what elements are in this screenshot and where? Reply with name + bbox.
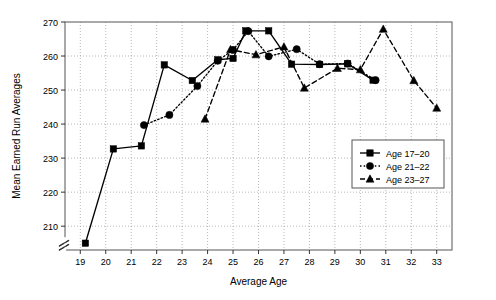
- y-tick-label: 260: [43, 52, 58, 62]
- data-point-triangle: [433, 104, 441, 111]
- data-point-square: [367, 150, 373, 156]
- legend-entry-label: Age 17–20: [386, 149, 430, 159]
- y-tick-label: 210: [43, 222, 58, 232]
- y-tick-label: 270: [43, 18, 58, 28]
- data-point-circle: [140, 122, 147, 129]
- x-tick-label: 33: [432, 257, 442, 267]
- x-tick-label: 29: [330, 257, 340, 267]
- x-tick-label: 20: [101, 257, 111, 267]
- x-tick-label: 32: [406, 257, 416, 267]
- legend-entry-label: Age 21–22: [386, 162, 430, 172]
- x-axis-title: Average Age: [230, 276, 288, 287]
- y-tick-label: 220: [43, 188, 58, 198]
- data-point-square: [161, 62, 167, 68]
- data-point-circle: [194, 82, 201, 89]
- series-line: [144, 31, 376, 125]
- x-tick-label: 21: [126, 257, 136, 267]
- y-tick-label: 250: [43, 86, 58, 96]
- data-point-square: [110, 146, 116, 152]
- legend-entry-label: Age 23–27: [386, 175, 430, 185]
- data-point-triangle: [300, 84, 308, 91]
- x-tick-label: 31: [381, 257, 391, 267]
- series-1: [82, 28, 376, 247]
- y-tick-labels: 210220230240250260270: [43, 18, 58, 232]
- x-tick-labels: 192021222324252627282930313233: [75, 257, 441, 267]
- series-line: [85, 31, 373, 243]
- data-point-triangle: [410, 76, 418, 83]
- x-tick-label: 30: [355, 257, 365, 267]
- data-point-triangle: [280, 43, 288, 50]
- x-tick-label: 19: [75, 257, 85, 267]
- x-tick-label: 24: [203, 257, 213, 267]
- data-point-circle: [293, 46, 300, 53]
- data-point-circle: [316, 61, 323, 68]
- y-tick-label: 230: [43, 154, 58, 164]
- data-point-circle: [214, 57, 221, 64]
- data-point-circle: [366, 162, 373, 169]
- data-series: [82, 25, 441, 246]
- data-point-square: [265, 28, 271, 34]
- data-point-circle: [265, 53, 272, 60]
- series-2: [140, 28, 379, 129]
- x-tick-label: 26: [253, 257, 263, 267]
- line-chart-svg: 210220230240250260270 192021222324252627…: [0, 0, 496, 300]
- data-point-circle: [166, 111, 173, 118]
- y-tick-label: 240: [43, 120, 58, 130]
- data-point-square: [82, 240, 88, 246]
- x-tick-label: 27: [279, 257, 289, 267]
- axis-ticks: [61, 22, 437, 254]
- data-point-square: [138, 143, 144, 149]
- x-tick-label: 22: [152, 257, 162, 267]
- chart-legend: Age 17–20Age 21–22Age 23–27: [352, 140, 444, 188]
- data-point-circle: [372, 77, 379, 84]
- y-axis-break-marker: [59, 237, 69, 253]
- y-axis-title: Mean Earned Run Averages: [11, 73, 22, 198]
- series-3: [201, 25, 441, 122]
- x-tick-label: 28: [304, 257, 314, 267]
- data-point-square: [230, 55, 236, 61]
- x-tick-label: 23: [177, 257, 187, 267]
- x-tick-label: 25: [228, 257, 238, 267]
- data-point-circle: [245, 28, 252, 35]
- data-point-circle: [344, 60, 351, 67]
- chart-figure: 210220230240250260270 192021222324252627…: [0, 0, 496, 300]
- data-point-square: [189, 77, 195, 83]
